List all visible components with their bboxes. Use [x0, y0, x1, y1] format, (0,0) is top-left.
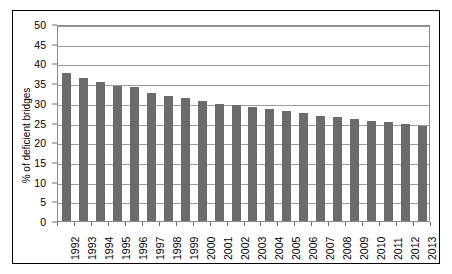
- x-tick-label: 1995: [120, 237, 132, 260]
- bar: [333, 117, 342, 221]
- bar: [384, 122, 393, 221]
- bar: [62, 73, 71, 221]
- x-tick-label: 1996: [137, 237, 149, 260]
- bar: [113, 86, 122, 221]
- bar: [181, 98, 190, 221]
- x-tick-label: 2008: [341, 237, 353, 260]
- y-axis-ticks: 05101520253035404550: [0, 25, 57, 222]
- y-tick-label: 20: [34, 137, 46, 149]
- bar: [265, 109, 274, 221]
- x-tick-label: 1994: [103, 237, 115, 260]
- x-tick-label: 2002: [239, 237, 251, 260]
- bar: [299, 113, 308, 221]
- bar: [147, 93, 156, 221]
- y-tick-label: 30: [34, 98, 46, 110]
- bars-group: [58, 26, 429, 221]
- y-tick-label: 25: [34, 118, 46, 130]
- x-tick-label: 2007: [324, 237, 336, 260]
- y-tick-label: 40: [34, 58, 46, 70]
- bar: [282, 111, 291, 221]
- x-axis-labels: 1992199319941995199619971998199920002001…: [57, 226, 430, 266]
- bar: [316, 116, 325, 221]
- x-tick-label: 2009: [358, 237, 370, 260]
- bar: [248, 107, 257, 221]
- y-tick-label: 50: [34, 19, 46, 31]
- bar: [164, 96, 173, 221]
- x-tick-label: 1998: [171, 237, 183, 260]
- x-tick-label: 2000: [205, 237, 217, 260]
- bar: [130, 87, 139, 221]
- x-tick-label: 2011: [392, 237, 404, 260]
- x-tick-label: 2013: [426, 237, 438, 260]
- x-tick-label: 1993: [86, 237, 98, 260]
- bar: [367, 121, 376, 221]
- x-tick-label: 2005: [290, 237, 302, 260]
- y-tick-label: 10: [34, 177, 46, 189]
- bar: [198, 101, 207, 221]
- x-tick-label: 2010: [375, 237, 387, 260]
- bar: [350, 119, 359, 221]
- y-tick-label: 45: [34, 39, 46, 51]
- y-tick-label: 5: [40, 196, 46, 208]
- x-tick-label: 1992: [69, 237, 81, 260]
- x-tick-mark: [430, 222, 431, 226]
- bar: [79, 78, 88, 221]
- plot-area: [57, 25, 430, 222]
- bar: [96, 82, 105, 221]
- bar: [401, 124, 410, 221]
- x-tick-label: 2004: [273, 237, 285, 260]
- bar: [215, 104, 224, 221]
- x-tick-label: 1999: [188, 237, 200, 260]
- bar: [418, 126, 427, 221]
- y-tick-label: 0: [40, 216, 46, 228]
- x-tick-label: 2012: [409, 237, 421, 260]
- x-tick-label: 1997: [154, 237, 166, 260]
- bar-chart-figure: % of deficient bridges 05101520253035404…: [0, 0, 452, 274]
- bar: [232, 105, 241, 221]
- x-tick-label: 2006: [307, 237, 319, 260]
- x-tick-label: 2001: [222, 237, 234, 260]
- y-tick-label: 35: [34, 78, 46, 90]
- x-tick-label: 2003: [256, 237, 268, 260]
- y-tick-label: 15: [34, 157, 46, 169]
